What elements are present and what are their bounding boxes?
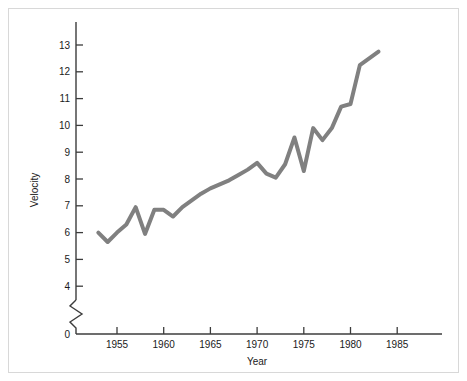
x-tick-label-1975: 1975	[293, 339, 316, 350]
y-tick-marks	[76, 45, 83, 286]
y-tick-label-6: 6	[64, 227, 70, 238]
y-axis-title: Velocity	[29, 173, 40, 207]
y-tick-label-9: 9	[64, 147, 70, 158]
y-tick-label-13: 13	[59, 40, 71, 51]
y-tick-label-8: 8	[64, 174, 70, 185]
y-tick-label-12: 12	[59, 66, 71, 77]
x-tick-label-1960: 1960	[153, 339, 176, 350]
y-axis-break-symbol	[70, 300, 82, 334]
line-chart-plot: 13 12 11 10 9 8 7 6 5 4 0 1955 1960 1965	[0, 0, 467, 381]
y-tick-label-4: 4	[64, 281, 70, 292]
x-tick-marks	[117, 327, 397, 334]
x-tick-label-1980: 1980	[339, 339, 362, 350]
velocity-data-line	[98, 52, 378, 242]
x-tick-label-1985: 1985	[386, 339, 409, 350]
x-axis-title: Year	[247, 356, 268, 367]
y-tick-label-0: 0	[64, 329, 70, 340]
x-tick-labels: 1955 1960 1965 1970 1975 1980 1985	[106, 339, 409, 350]
x-tick-label-1965: 1965	[199, 339, 222, 350]
y-tick-label-5: 5	[64, 254, 70, 265]
y-tick-label-10: 10	[59, 120, 71, 131]
chart-figure: 13 12 11 10 9 8 7 6 5 4 0 1955 1960 1965	[0, 0, 467, 381]
y-tick-labels: 13 12 11 10 9 8 7 6 5 4 0	[59, 40, 71, 341]
y-tick-label-7: 7	[64, 200, 70, 211]
y-tick-label-11: 11	[60, 93, 71, 104]
x-tick-label-1955: 1955	[106, 339, 129, 350]
x-tick-label-1970: 1970	[246, 339, 269, 350]
